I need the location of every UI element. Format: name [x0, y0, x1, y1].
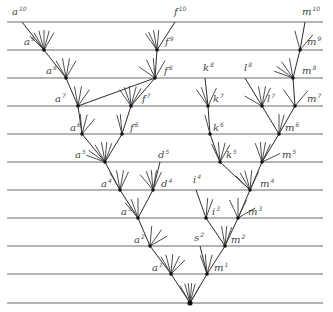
node-k7 — [206, 104, 210, 108]
node-a1 — [169, 272, 173, 276]
node-m6 — [277, 132, 281, 136]
node-f9 — [155, 48, 159, 52]
node-m1 — [205, 272, 209, 276]
label-m1: m1 — [214, 261, 228, 273]
label-l7: l7 — [267, 92, 275, 104]
label-d5: d5 — [158, 148, 169, 160]
label-m9: m9 — [307, 35, 321, 47]
stub-k5 — [220, 143, 225, 162]
stub-d4 — [140, 175, 153, 190]
node-a3 — [136, 216, 140, 220]
node-a4 — [118, 188, 122, 192]
stub-m1 — [207, 255, 212, 274]
label-k6: k6 — [213, 121, 224, 133]
edge-m8-m7 — [293, 78, 295, 106]
node-m7 — [293, 104, 297, 108]
node-a2 — [148, 244, 152, 248]
label-s2: s2 — [194, 231, 204, 243]
stub-a2 — [150, 226, 152, 246]
stub-a9 — [44, 31, 49, 50]
node-root — [187, 300, 192, 305]
label-m2: m2 — [231, 233, 245, 245]
node-a5 — [103, 160, 107, 164]
label-f6: f6 — [129, 121, 139, 133]
node-m8 — [291, 76, 295, 80]
label-a5: a5 — [75, 148, 86, 160]
label-k5: k5 — [226, 148, 237, 160]
stub-m3 — [230, 200, 239, 218]
edge-f9-f8 — [155, 50, 157, 78]
label-m7: m7 — [307, 92, 321, 104]
node-m4 — [248, 188, 252, 192]
label-a2: a2 — [134, 233, 145, 245]
edge-m10-m9 — [300, 22, 305, 50]
label-a8: a8 — [46, 64, 57, 76]
stub-a9 — [44, 33, 54, 50]
label-a7: a7 — [55, 92, 66, 104]
label-a3: a3 — [121, 205, 132, 217]
edge-i4-i3 — [196, 190, 206, 218]
edge-a8-a7 — [66, 78, 78, 106]
stub-a1 — [171, 260, 185, 274]
stub-m7 — [284, 90, 296, 106]
label-a4: a4 — [101, 177, 112, 189]
label-i4: i4 — [193, 173, 201, 185]
edge-l7-m6 — [262, 106, 279, 134]
node-m5 — [260, 160, 264, 164]
node-k5 — [218, 160, 222, 164]
label-a10: a10 — [12, 5, 27, 17]
node-labels: a10a9a8a7a6a5a4a3a2a1f10f9f8f7f6d5d4k8k7… — [12, 5, 321, 273]
stub-a2 — [150, 230, 162, 246]
label-k8: k8 — [203, 61, 214, 73]
label-m5: m5 — [282, 148, 296, 160]
node-l7 — [260, 104, 264, 108]
stub-f7 — [120, 90, 132, 106]
label-m3: m3 — [248, 205, 262, 217]
stub-m9 — [295, 31, 300, 50]
node-d4 — [151, 188, 155, 192]
node-f8 — [153, 76, 157, 80]
stub-f7 — [131, 89, 141, 106]
label-m4: m4 — [260, 177, 274, 189]
node-i3 — [204, 216, 208, 220]
stub-m7 — [295, 91, 308, 106]
label-f9: f9 — [164, 35, 174, 47]
node-m2 — [223, 244, 227, 248]
label-f10: f10 — [173, 5, 187, 17]
node-m3 — [236, 216, 240, 220]
node-k6 — [208, 132, 212, 136]
node-m9 — [298, 48, 302, 52]
node-f7 — [129, 104, 133, 108]
label-m8: m8 — [302, 64, 316, 76]
node-a7 — [76, 104, 80, 108]
label-m10: m10 — [302, 5, 320, 17]
node-a9 — [42, 48, 46, 52]
label-a6: a6 — [70, 121, 81, 133]
label-a9: a9 — [24, 35, 35, 47]
node-f6 — [120, 132, 124, 136]
stub-m8 — [277, 67, 293, 79]
label-l8: l8 — [244, 61, 252, 73]
node-a8 — [64, 76, 68, 80]
label-a1: a1 — [152, 261, 163, 273]
edge-d4-a3 — [138, 190, 153, 218]
phylogeny-diagram: a10a9a8a7a6a5a4a3a2a1f10f9f8f7f6d5d4k8k7… — [0, 0, 333, 312]
label-m6: m6 — [285, 121, 299, 133]
label-k7: k7 — [213, 92, 224, 104]
label-f7: f7 — [141, 92, 151, 104]
node-a6 — [80, 132, 84, 136]
edge-m9-m8 — [293, 50, 300, 78]
edge-f6-a5 — [105, 134, 122, 162]
label-f8: f8 — [163, 64, 173, 76]
label-d4: d4 — [161, 177, 172, 189]
stub-m6 — [279, 115, 284, 134]
stub-a2 — [150, 236, 167, 246]
label-i3: i3 — [212, 205, 220, 217]
